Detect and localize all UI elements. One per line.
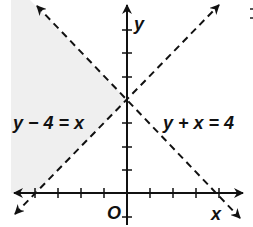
line2-label: y + x = 4 [162, 113, 234, 133]
x-axis-label: x [210, 204, 222, 224]
origin-label: O [107, 203, 121, 223]
clipped-glyph-fragment [250, 8, 253, 19]
shaded-region [11, 0, 127, 193]
line1-label: y − 4 = x [12, 113, 85, 133]
coordinate-plane: y x O y − 4 = x y + x = 4 [0, 0, 253, 227]
y-axis-label: y [133, 14, 145, 34]
